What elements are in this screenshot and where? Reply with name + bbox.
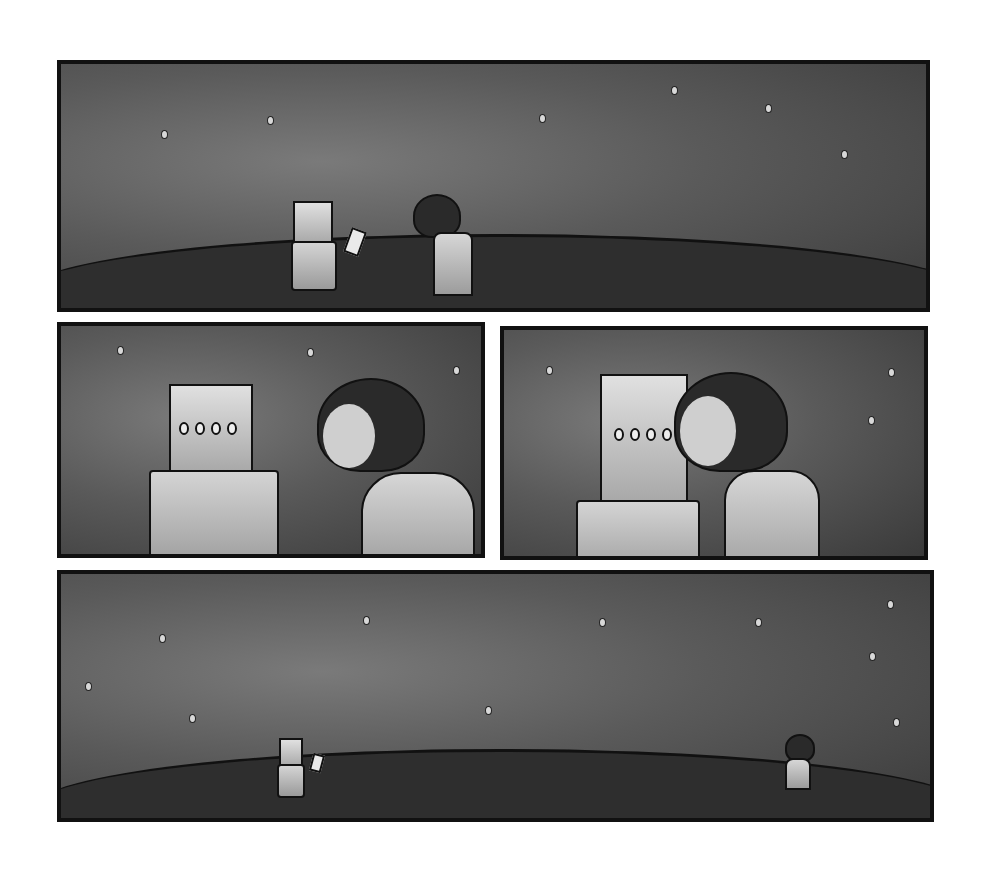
comic-panel-2 xyxy=(57,322,485,558)
girl-body xyxy=(433,232,473,296)
robot-body xyxy=(291,241,337,291)
star-icon xyxy=(888,368,895,377)
star-icon xyxy=(765,104,772,113)
robot-body xyxy=(149,470,279,558)
star-icon xyxy=(159,634,166,643)
star-icon xyxy=(755,618,762,627)
star-icon xyxy=(485,706,492,715)
star-icon xyxy=(893,718,900,727)
girl-body xyxy=(361,472,475,558)
star-icon xyxy=(887,600,894,609)
star-icon xyxy=(363,616,370,625)
robot-eye xyxy=(211,422,221,435)
robot-eye xyxy=(662,428,672,441)
star-icon xyxy=(307,348,314,357)
comic-panel-4 xyxy=(57,570,934,822)
star-icon xyxy=(117,346,124,355)
robot-body xyxy=(576,500,700,560)
star-icon xyxy=(189,714,196,723)
comic-panel-3 xyxy=(500,326,928,560)
robot-head xyxy=(293,201,333,245)
star-icon xyxy=(868,416,875,425)
star-icon xyxy=(869,652,876,661)
star-icon xyxy=(546,366,553,375)
star-icon xyxy=(453,366,460,375)
star-icon xyxy=(85,682,92,691)
star-icon xyxy=(599,618,606,627)
hill xyxy=(57,234,930,312)
star-icon xyxy=(671,86,678,95)
robot-eye xyxy=(646,428,656,441)
star-icon xyxy=(267,116,274,125)
comic-panel-1 xyxy=(57,60,930,312)
star-icon xyxy=(539,114,546,123)
robot-eye xyxy=(614,428,624,441)
girl-face xyxy=(323,404,375,468)
robot-eye xyxy=(630,428,640,441)
star-icon xyxy=(841,150,848,159)
robot-body xyxy=(277,764,305,798)
robot-eye xyxy=(227,422,237,435)
girl-face xyxy=(680,396,736,466)
robot-eye xyxy=(179,422,189,435)
robot-eye xyxy=(195,422,205,435)
girl-body xyxy=(785,758,811,790)
star-icon xyxy=(161,130,168,139)
girl-body xyxy=(724,470,820,560)
